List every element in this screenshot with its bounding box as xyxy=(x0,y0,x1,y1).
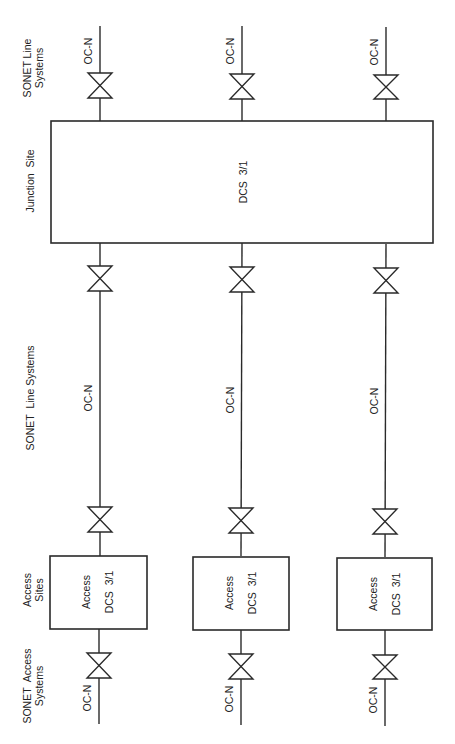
valve-icon xyxy=(87,653,111,678)
bottom-link-label: OC-N xyxy=(223,686,235,713)
valve-icon xyxy=(373,655,397,679)
access-box-dcs-label: DCS 3/1 xyxy=(390,573,402,616)
svg-text:Access: Access xyxy=(21,573,33,607)
valve-icon xyxy=(374,268,398,293)
valve-icon xyxy=(374,75,398,99)
top-link-label: OC-N xyxy=(82,38,94,65)
access-box-label: Access xyxy=(223,576,235,610)
bottom-link-label: OC-N xyxy=(367,687,379,714)
access-box-label: Access xyxy=(80,575,92,609)
row-label-junction-site: Junction Site xyxy=(24,149,36,212)
sonet-network-diagram: SONET Line Systems Junction Site SONET L… xyxy=(0,0,455,744)
access-box-dcs-label: DCS 3/1 xyxy=(246,572,258,615)
access-dcs-box-3: Access DCS 3/1 xyxy=(337,558,432,630)
valve-icon xyxy=(229,508,253,533)
svg-text:Systems: Systems xyxy=(33,666,45,706)
bottom-link-label: OC-N xyxy=(81,685,93,712)
access-dcs-box-2: Access DCS 3/1 xyxy=(193,557,289,630)
top-link-label: OC-N xyxy=(368,39,380,66)
valve-icon xyxy=(229,654,253,679)
row-label-middle-line-systems: SONET Line Systems xyxy=(24,346,36,451)
junction-dcs-box: DCS 3/1 xyxy=(51,121,433,243)
access-box-label: Access xyxy=(367,577,379,611)
middle-link-label: OC-N xyxy=(368,388,380,415)
valve-icon xyxy=(88,73,112,98)
svg-text:Sites: Sites xyxy=(33,578,45,601)
middle-link-label: OC-N xyxy=(224,387,236,414)
middle-link-label: OC-N xyxy=(82,385,94,412)
valve-icon xyxy=(373,509,397,534)
top-link-label: OC-N xyxy=(224,38,236,65)
svg-text:Systems: Systems xyxy=(33,48,45,88)
junction-dcs-label: DCS 3/1 xyxy=(237,161,249,204)
row-label-top-line-systems: SONET Line Systems xyxy=(21,38,45,97)
svg-text:SONET Access: SONET Access xyxy=(21,648,33,723)
access-dcs-box-1: Access DCS 3/1 xyxy=(50,556,147,629)
svg-text:SONET Line: SONET Line xyxy=(21,38,33,97)
valve-icon xyxy=(88,507,112,532)
valve-icon xyxy=(230,74,254,99)
valve-icon xyxy=(230,267,254,292)
row-label-access-systems: SONET Access Systems xyxy=(21,648,45,723)
valve-icon xyxy=(88,266,112,291)
row-label-access-sites: Access Sites xyxy=(21,573,45,607)
access-box-dcs-label: DCS 3/1 xyxy=(103,571,115,614)
